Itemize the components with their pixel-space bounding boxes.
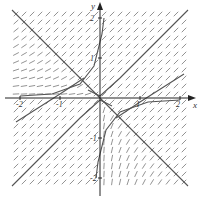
field-segment [166,116,171,121]
field-segment [150,124,155,129]
field-segment [174,44,179,49]
field-segment [94,76,99,81]
field-segment [119,179,120,185]
field-segment [126,84,131,89]
field-segment [30,100,35,105]
field-segment [118,100,123,105]
field-segment [135,163,138,169]
field-segment [13,77,19,78]
field-segment [143,179,146,185]
field-segment [21,61,27,64]
field-segment [13,36,18,40]
field-segment [54,132,59,137]
field-segment [118,12,123,17]
field-segment [158,60,163,65]
field-segment [37,69,43,72]
field-segment [70,180,75,185]
field-segment [45,60,50,64]
field-segment [150,28,155,33]
field-segment [110,12,115,17]
field-segment [70,28,75,33]
field-segment [118,52,123,57]
field-segment [135,179,138,185]
field-segment [46,28,51,33]
field-segment [94,20,99,25]
field-segment [166,132,171,137]
field-segment [174,148,179,153]
field-segment [110,60,115,65]
field-segment [94,116,99,121]
field-segment [118,44,123,49]
field-segment [174,124,179,129]
field-segment [70,156,75,161]
field-segment [110,28,115,33]
field-segment [127,155,130,161]
field-segment [118,123,122,128]
field-segment [30,116,35,121]
field-segment [150,156,154,161]
field-segment [118,131,121,137]
field-segment [118,60,123,65]
field-segment [182,28,187,33]
field-segment [54,156,59,161]
field-segment [62,28,67,33]
field-segment [14,148,19,153]
field-segment [102,12,107,17]
field-segment [77,93,83,94]
field-segment [126,76,131,81]
field-segment [22,180,27,185]
field-segment [119,147,121,153]
field-segment [142,163,145,168]
field-segment [158,132,163,137]
y-axis-label: y [90,1,95,11]
field-segment [37,60,42,63]
field-segment [45,77,51,79]
x-tick-label: 1 [136,100,140,109]
field-segment [150,140,155,145]
field-segment [62,20,67,25]
field-segment [38,108,43,113]
field-segment [70,140,75,145]
field-segment [69,76,74,80]
field-segment [21,86,27,87]
field-segment [62,52,67,57]
field-segment [78,100,83,105]
field-segment [78,44,83,49]
field-segment [86,36,91,41]
field-segment [21,52,27,55]
field-segment [174,132,179,137]
field-segment [62,172,67,177]
field-segment [29,77,35,79]
field-segment [14,156,19,161]
field-segment [158,20,163,25]
field-segment [150,68,155,73]
field-segment [22,148,27,153]
field-segment [37,52,42,56]
field-segment [174,68,179,73]
field-segment [54,20,59,25]
field-segment [150,52,155,57]
field-segment [54,28,59,33]
field-segment [174,180,178,185]
field-segment [142,28,147,33]
field-segment [103,107,105,113]
field-segment [174,164,179,169]
field-segment [86,148,91,153]
field-segment [150,132,155,137]
field-segment [182,116,187,121]
field-segment [30,172,35,177]
field-segment [166,148,171,153]
field-segment [158,124,163,129]
field-segment [150,12,155,17]
field-segment [13,86,19,87]
field-segment [14,124,19,129]
field-segment [118,68,123,73]
field-segment [78,20,83,25]
field-segment [182,156,187,161]
field-segment [94,68,99,73]
field-segment [94,124,99,129]
field-segment [182,44,187,49]
field-segment [62,180,67,185]
field-segment [61,85,67,87]
field-segment [70,12,75,17]
